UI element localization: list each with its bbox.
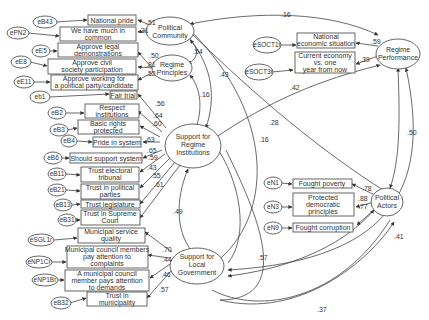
indicator-much-in-common: We have much in common <box>60 27 136 41</box>
svg-text:Support for: Support for <box>176 133 211 141</box>
svg-text:Political: Political <box>158 24 183 31</box>
svg-text:Institutions: Institutions <box>176 149 210 156</box>
svg-text:Community: Community <box>152 32 188 40</box>
indicator-current-economy: Current economy vs. one year from now <box>295 52 355 74</box>
svg-text:.60: .60 <box>152 120 162 127</box>
svg-text:.77: .77 <box>358 203 368 210</box>
svg-text:.56: .56 <box>155 100 165 107</box>
svg-text:National: National <box>313 33 339 40</box>
svg-text:.54: .54 <box>193 48 203 55</box>
indicator-trust-municipality: Trust in municipality <box>87 292 147 307</box>
svg-text:eSOCT3r: eSOCT3r <box>245 68 273 75</box>
svg-text:eNP1Br: eNP1Br <box>34 276 58 283</box>
svg-text:.52: .52 <box>146 70 156 77</box>
svg-text:Local: Local <box>189 261 206 268</box>
svg-text:to demands: to demands <box>89 284 126 291</box>
latent-political-actors: Political Actors <box>371 188 403 216</box>
svg-text:Trust in: Trust in <box>105 292 128 299</box>
svg-text:Performance: Performance <box>378 54 418 61</box>
svg-text:.37: .37 <box>317 306 327 313</box>
svg-text:eB43: eB43 <box>37 18 53 25</box>
svg-text:eSGL1r: eSGL1r <box>30 236 53 243</box>
svg-text:Regime: Regime <box>181 141 205 149</box>
indicator-protected-democratic-principles: Protected democratic principles <box>293 193 354 216</box>
svg-text:Court: Court <box>101 217 118 224</box>
svg-text:a political party/candidate: a political party/candidate <box>55 82 134 90</box>
svg-text:Principles: Principles <box>157 69 188 77</box>
svg-text:.65: .65 <box>147 147 157 154</box>
indicator-council-demands: A municipal council member pays attentio… <box>65 270 149 291</box>
svg-text:.63: .63 <box>145 136 155 143</box>
svg-text:Regime: Regime <box>160 61 184 69</box>
svg-text:.64: .64 <box>153 112 163 119</box>
svg-text:.57: .57 <box>159 286 169 293</box>
indicator-trust-supreme-court: Trust in Supreme Court <box>81 210 140 225</box>
svg-text:.16: .16 <box>281 11 291 18</box>
latent-regime-performance: Regime Performance <box>376 39 420 69</box>
indicator-trust-electoral-tribunal: Trust electoral tribunal <box>81 167 139 182</box>
svg-text:.16: .16 <box>259 136 269 143</box>
svg-text:.46: .46 <box>161 271 171 278</box>
svg-text:eE5: eE5 <box>35 47 47 54</box>
svg-text:.81: .81 <box>146 61 156 68</box>
svg-text:Trust electoral: Trust electoral <box>88 167 133 174</box>
svg-text:ePN2: ePN2 <box>10 29 27 36</box>
indicator-respect-institutions: Respect institutions <box>85 104 139 118</box>
svg-text:principles: principles <box>308 208 338 216</box>
indicator-trust-legislature: Trust legislature <box>81 200 140 209</box>
svg-text:eSOCT1r: eSOCT1r <box>253 41 281 48</box>
svg-text:eB11: eB11 <box>50 170 65 177</box>
svg-text:eb1: eb1 <box>35 93 46 100</box>
svg-text:society participation: society participation <box>61 66 123 74</box>
indicator-national-pride: National pride <box>88 15 136 25</box>
indicator-approve-working-party: Approve working for a political party/ca… <box>51 75 138 90</box>
svg-text:Should support system: Should support system <box>70 155 141 163</box>
indicator-fair-trial: Fair trial <box>110 91 137 99</box>
cov-arc-middle <box>215 145 240 263</box>
svg-text:.55: .55 <box>151 172 161 179</box>
indicator-fought-corruption: Fought corruption <box>293 223 353 232</box>
svg-text:Pride in system: Pride in system <box>93 139 141 147</box>
indicator-approve-civil-society: Approve civil society participation <box>48 59 136 74</box>
svg-text:.43: .43 <box>219 71 229 78</box>
indicator-council-complaints: Municipal council members pay attention … <box>65 246 150 268</box>
svg-text:protected: protected <box>93 127 122 135</box>
svg-text:tribunal: tribunal <box>99 174 122 181</box>
cov-pc-pa <box>190 32 386 192</box>
svg-text:.78: .78 <box>362 185 372 192</box>
svg-text:Regime: Regime <box>386 46 410 54</box>
svg-text:eE11: eE11 <box>17 78 32 85</box>
svg-text:quality: quality <box>101 235 122 243</box>
svg-text:eN3: eN3 <box>267 203 279 210</box>
svg-text:Protected: Protected <box>308 194 338 201</box>
svg-text:.59: .59 <box>371 38 381 45</box>
svg-text:.88: .88 <box>358 195 368 202</box>
svg-text:eN1: eN1 <box>267 179 279 186</box>
svg-text:Support for: Support for <box>180 253 215 261</box>
svg-text:.51: .51 <box>146 19 156 26</box>
cov-pc-rperf <box>190 15 378 35</box>
svg-text:eB32: eB32 <box>53 299 69 306</box>
svg-text:.57: .57 <box>258 254 268 261</box>
svg-text:parties: parties <box>99 191 121 199</box>
sem-path-diagram: Political Community Regime Principles Su… <box>0 0 429 320</box>
svg-text:.42: .42 <box>290 84 300 91</box>
cov-rperf-pa <box>390 68 399 188</box>
indicator-trust-political-parties: Trust in political parties <box>81 184 139 199</box>
svg-text:eE8: eE8 <box>15 58 27 65</box>
svg-text:economic situation: economic situation <box>297 40 355 47</box>
svg-text:Fair trial: Fair trial <box>110 92 136 99</box>
svg-text:common: common <box>85 34 112 41</box>
svg-text:.50: .50 <box>407 129 417 136</box>
svg-text:vs. one: vs. one <box>314 59 337 66</box>
svg-text:year from now: year from now <box>303 66 348 74</box>
svg-text:demonstrations: demonstrations <box>74 50 122 57</box>
svg-text:Actors: Actors <box>377 202 397 209</box>
svg-text:eB6: eB6 <box>47 154 59 161</box>
indicator-pride-in-system: Pride in system <box>93 137 141 147</box>
svg-text:complaints: complaints <box>90 260 124 268</box>
indicator-fought-poverty: Fought poverty <box>293 179 352 188</box>
svg-text:.41: .41 <box>394 233 404 240</box>
svg-text:eB31: eB31 <box>59 216 75 223</box>
svg-text:.31: .31 <box>139 27 149 34</box>
